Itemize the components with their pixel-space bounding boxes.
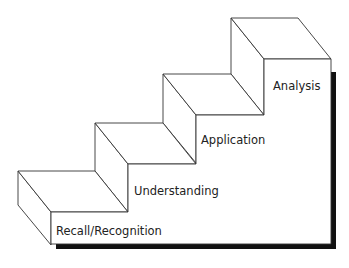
shadow-right — [331, 72, 336, 249]
shadow-bottom — [56, 244, 336, 249]
step-label-1: Recall/Recognition — [56, 224, 162, 238]
staircase-diagram: Recall/Recognition Understanding Applica… — [0, 0, 349, 268]
step-label-4: Analysis — [273, 79, 320, 93]
step-label-2: Understanding — [134, 184, 219, 198]
step-label-3: Application — [201, 133, 265, 147]
